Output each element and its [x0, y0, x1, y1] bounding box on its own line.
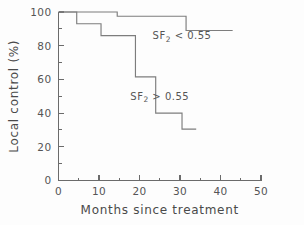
- x-tick-label: 20: [132, 185, 146, 197]
- y-tick-label: 80: [37, 40, 51, 52]
- axis-titles-group: Months since treatmentLocal control (%): [7, 40, 239, 217]
- kaplan-meier-chart: 01020304050020406080100 SF2 < 0.55SF2 > …: [0, 0, 304, 225]
- x-tick-label: 50: [254, 185, 268, 197]
- series-label-1: SF2 < 0.55: [153, 30, 212, 44]
- x-tick-label: 30: [173, 185, 187, 197]
- y-tick-label: 100: [30, 6, 51, 18]
- figure-container: 01020304050020406080100 SF2 < 0.55SF2 > …: [0, 0, 304, 225]
- y-tick-label: 0: [44, 174, 51, 186]
- y-axis-title: Local control (%): [7, 40, 21, 153]
- x-tick-label: 10: [92, 185, 106, 197]
- y-tick-label: 40: [37, 107, 51, 119]
- y-tick-label: 60: [37, 73, 51, 85]
- x-axis-title: Months since treatment: [81, 203, 239, 217]
- series-annotations-group: SF2 < 0.55SF2 > 0.55: [130, 30, 211, 104]
- series-label-2: SF2 > 0.55: [130, 91, 189, 105]
- x-tick-label: 40: [213, 185, 227, 197]
- x-tick-label: 0: [55, 185, 62, 197]
- y-tick-label: 20: [37, 141, 51, 153]
- series-curve-1: [59, 12, 233, 31]
